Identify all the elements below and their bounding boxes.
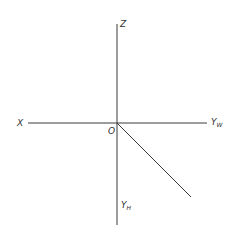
projection-axes-diagram: Z X O YW YH [0, 0, 232, 240]
x-axis-label: X [16, 118, 24, 128]
yw-subscript: W [217, 121, 224, 128]
origin-label: O [108, 126, 115, 136]
yh-subscript: H [127, 204, 132, 211]
yw-axis-label: YW [211, 117, 224, 128]
z-axis-label: Z [119, 19, 127, 29]
diagonal-45-line [117, 123, 191, 197]
yh-axis-label: YH [121, 200, 132, 211]
